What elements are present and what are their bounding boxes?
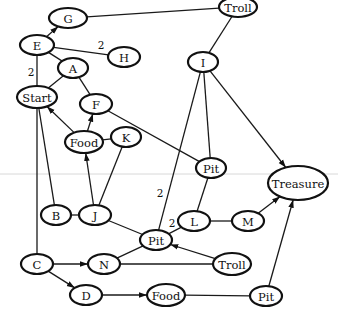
node-k: K — [111, 127, 141, 147]
graph-diagram: 2222 GTrollEHIAStartFFoodKPitTreasureBJL… — [0, 0, 338, 325]
node-d: D — [70, 285, 102, 305]
node-label: F — [92, 98, 100, 112]
edge-pit3-treasure — [269, 200, 293, 286]
edge-food1-k — [103, 139, 112, 140]
node-treasure: Treasure — [268, 166, 328, 200]
node-h: H — [108, 47, 140, 67]
node-f: F — [80, 94, 112, 114]
node-label: Pit — [258, 290, 274, 304]
edge-j-pit2 — [108, 221, 142, 235]
node-j: J — [79, 205, 111, 225]
node-start: Start — [17, 86, 57, 108]
edge-i-pit1 — [204, 72, 210, 158]
edge-start-b — [39, 108, 55, 205]
edge-j-food1 — [86, 153, 94, 205]
node-b: B — [41, 205, 71, 225]
node-label: J — [92, 209, 98, 223]
node-label: Food — [152, 289, 181, 303]
node-pit2: Pit — [140, 230, 172, 250]
edge-g-troll1 — [87, 8, 219, 17]
node-label: Pit — [148, 234, 164, 248]
edge-a-f — [79, 77, 90, 95]
edge-food1-start — [47, 107, 74, 133]
node-pit3: Pit — [250, 286, 282, 306]
node-n: N — [88, 254, 120, 274]
node-label: D — [81, 289, 90, 303]
edge-m-treasure — [258, 197, 280, 214]
node-food1: Food — [65, 131, 103, 153]
node-label: Pit — [203, 162, 219, 176]
node-label: M — [242, 215, 254, 229]
edge-a-start — [48, 76, 63, 88]
edge-i-treasure — [210, 71, 286, 168]
node-label: Troll — [224, 1, 252, 15]
edge-weight-label: 2 — [98, 39, 105, 51]
node-troll1: Troll — [219, 0, 257, 17]
edge-troll2-pit2 — [170, 245, 215, 259]
node-c: C — [21, 254, 53, 274]
node-label: C — [33, 258, 42, 272]
edge-pit2-n — [117, 246, 143, 258]
edge-weight-label: 2 — [157, 187, 164, 199]
node-label: A — [68, 62, 78, 76]
node-label: Food — [70, 136, 99, 150]
node-g: G — [49, 8, 87, 28]
edge-weight-label: 2 — [28, 66, 35, 78]
nodes-layer: GTrollEHIAStartFFoodKPitTreasureBJLMPitC… — [17, 0, 328, 306]
node-label: Start — [22, 91, 52, 105]
edge-k-j — [99, 147, 122, 206]
node-i: I — [188, 52, 218, 72]
node-label: H — [119, 51, 129, 65]
node-troll2: Troll — [213, 253, 251, 275]
edge-e-g — [47, 27, 59, 37]
node-pit1: Pit — [196, 158, 226, 178]
node-label: L — [190, 215, 198, 229]
node-label: K — [122, 131, 131, 145]
node-label: N — [99, 258, 109, 272]
node-label: B — [52, 209, 60, 223]
node-label: Troll — [218, 258, 246, 272]
edge-pit1-l — [197, 178, 208, 211]
node-a: A — [58, 58, 88, 78]
edge-food2-pit3 — [185, 295, 250, 296]
node-m: M — [232, 211, 264, 231]
node-label: I — [201, 56, 206, 70]
node-label: E — [33, 39, 41, 53]
node-label: Treasure — [272, 177, 325, 191]
edge-food1-f — [87, 114, 93, 131]
node-l: L — [178, 211, 210, 231]
node-label: G — [63, 12, 72, 26]
node-e: E — [20, 35, 54, 55]
edge-c-d — [48, 271, 75, 288]
edge-troll1-i — [209, 17, 232, 53]
edge-e-a — [49, 52, 63, 61]
edge-weight-label: 2 — [169, 217, 176, 229]
node-food2: Food — [147, 284, 185, 306]
